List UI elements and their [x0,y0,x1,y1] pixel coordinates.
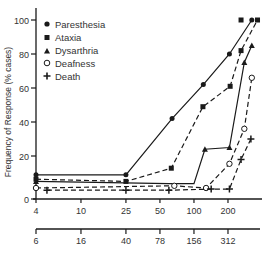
cross-marker [122,187,129,194]
filled-circle-marker [227,52,232,57]
open-circle-marker [203,185,208,190]
y-tick-label: 80 [19,50,29,60]
x-tick-label: 10 [76,206,86,216]
x-axis-secondary: 6164078156312 [33,229,260,246]
filled-square-marker [200,104,205,109]
filled-square-marker [228,84,233,89]
series-death [43,136,254,194]
cross-marker [247,136,254,143]
filled-circle-marker [201,82,206,87]
x-axis-primary-ticks: 4102550100200 [33,199,235,216]
y-tick-label: 0 [24,195,29,205]
x2-tick-label: 156 [186,236,201,246]
y-axis-ticks: 020406080100 [14,16,36,205]
y-tick-label: 60 [19,84,29,94]
y-tick-label: 40 [19,118,29,128]
x2-tick-label: 312 [220,236,235,246]
svg-text:Dysarthria: Dysarthria [55,45,99,56]
legend-item-dysarthria: Dysarthria [44,45,99,56]
y-axis: 020406080100 Frequency of Response (% ca… [3,8,36,205]
legend: Paresthesia Ataxia Dysarthria Deafness D… [44,19,106,82]
filled-square-marker [169,166,174,171]
x-axis-secondary-ticks: 6164078156312 [33,229,235,246]
filled-square-marker [239,18,244,23]
x-tick-label: 200 [220,206,235,216]
filled-circle-marker [34,172,39,177]
cross-marker [238,156,245,163]
open-circle-marker [227,161,232,166]
cross-marker [226,186,233,193]
x2-tick-label: 40 [121,236,131,246]
x-tick-label: 100 [186,206,201,216]
open-circle-marker [33,185,38,190]
series-layer [33,18,260,194]
cross-icon [44,73,51,80]
y-tick-label: 20 [19,152,29,162]
filled-triangle-icon [44,48,50,54]
open-circle-icon [44,60,50,66]
y-axis-label: Frequency of Response (% cases) [3,47,13,178]
filled-triangle-marker [249,43,255,49]
filled-circle-icon [44,21,49,26]
open-circle-marker [242,126,247,131]
x2-tick-label: 6 [33,236,38,246]
filled-triangle-marker [241,60,247,66]
filled-circle-marker [123,172,128,177]
x-axis-primary: 4102550100200 [33,199,262,216]
open-circle-marker [249,75,254,80]
x-tick-label: 50 [155,206,165,216]
x-tick-label: 25 [121,206,131,216]
legend-item-ataxia: Ataxia [45,32,83,43]
legend-item-paresthesia: Paresthesia [44,19,105,30]
series-deafness [33,75,254,191]
cross-marker [165,187,172,194]
svg-text:Deafness: Deafness [55,58,95,69]
filled-circle-marker [170,116,175,121]
x2-tick-label: 16 [76,236,86,246]
x2-tick-label: 78 [155,236,165,246]
filled-square-marker [255,18,260,23]
series-line [36,20,252,175]
legend-item-death: Death [44,71,81,82]
filled-square-icon [45,35,50,40]
svg-text:Death: Death [55,71,80,82]
filled-circle-marker [249,18,254,23]
svg-text:Paresthesia: Paresthesia [55,19,106,30]
dose-response-chart: 020406080100 Frequency of Response (% ca… [0,0,266,255]
svg-text:Ataxia: Ataxia [55,32,82,43]
x-tick-label: 4 [33,206,38,216]
open-circle-marker [172,183,177,188]
y-tick-label: 100 [14,16,29,26]
filled-square-marker [239,48,244,53]
legend-item-deafness: Deafness [44,58,95,69]
